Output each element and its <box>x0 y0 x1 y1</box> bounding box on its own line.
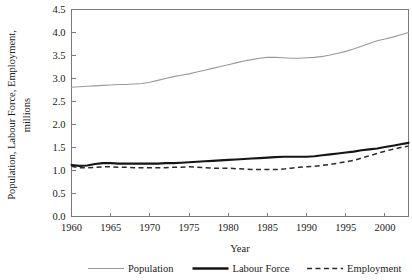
series-line-population <box>72 33 409 88</box>
legend-label-employment: Employment <box>347 263 401 274</box>
y-tick-label: 2.5 <box>52 96 65 107</box>
x-tick-label: 1990 <box>296 222 317 233</box>
y-tick-label: 3.5 <box>52 50 65 61</box>
x-tick-label: 1965 <box>100 222 121 233</box>
y-tick-label: 1.5 <box>52 142 65 153</box>
y-tick-label: 0.5 <box>52 188 65 199</box>
series-line-labour-force <box>72 143 409 166</box>
x-axis: 196019651970197519801985199019952000 <box>61 213 395 233</box>
population-labour-employment-line-chart: 0.00.51.01.52.02.53.03.54.04.5 196019651… <box>0 0 412 280</box>
x-axis-title: Year <box>230 243 250 254</box>
chart-figure: 0.00.51.01.52.02.53.03.54.04.5 196019651… <box>0 0 412 280</box>
y-tick-label: 3.0 <box>52 73 65 84</box>
x-tick-label: 1970 <box>139 222 160 233</box>
x-tick-label: 1960 <box>61 222 82 233</box>
y-tick-label: 4.5 <box>52 4 65 15</box>
x-tick-label: 1985 <box>257 222 278 233</box>
y-axis-title-line2: millions <box>21 98 32 132</box>
legend-label-labour-force: Labour Force <box>233 263 290 274</box>
y-axis-title-line1: Population, Labour Force, Employment, <box>6 30 17 200</box>
plot-area-border <box>72 10 409 217</box>
x-tick-label: 1975 <box>179 222 200 233</box>
legend-label-population: Population <box>128 263 174 274</box>
chart-legend: PopulationLabour ForceEmployment <box>88 263 401 274</box>
y-tick-label: 2.0 <box>52 119 65 130</box>
data-series-group <box>72 33 409 170</box>
y-axis: 0.00.51.01.52.02.53.03.54.04.5 <box>52 4 75 222</box>
plot-frame <box>72 10 409 217</box>
series-line-employment <box>72 146 409 169</box>
y-tick-label: 0.0 <box>52 211 65 222</box>
x-tick-label: 2000 <box>374 222 395 233</box>
x-tick-label: 1980 <box>218 222 239 233</box>
y-tick-label: 4.0 <box>52 27 65 38</box>
x-tick-label: 1995 <box>335 222 356 233</box>
y-tick-label: 1.0 <box>52 165 65 176</box>
